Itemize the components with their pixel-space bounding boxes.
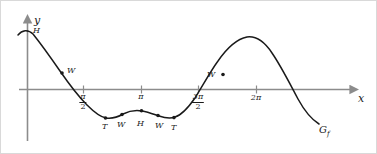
point-label-w-2: W — [117, 121, 125, 129]
point-label-h-2: H — [137, 120, 144, 128]
curve-name-base: G — [319, 124, 327, 135]
fraction-pi-over-2: π 2 — [79, 93, 86, 111]
tick-label-3pi-over-2: 3π 2 — [192, 93, 204, 111]
point-label-t-2: T — [171, 124, 176, 132]
marker-w-3 — [156, 114, 160, 118]
function-curve — [18, 31, 319, 124]
marker-t-2 — [172, 116, 176, 120]
tick-label-pi: π — [138, 93, 143, 101]
tick-label-pi-over-2: π 2 — [79, 93, 86, 111]
marker-t-1 — [104, 116, 108, 120]
point-label-h-1: H — [33, 27, 40, 35]
x-axis-label: x — [358, 93, 364, 104]
marker-w-2 — [120, 113, 124, 117]
point-label-w-1: W — [67, 67, 75, 75]
point-label-w-4: W — [207, 71, 215, 79]
marker-h-2 — [140, 109, 144, 113]
fraction-numerator: π — [79, 93, 86, 101]
y-axis-label: y — [34, 15, 40, 26]
fraction-3pi-over-2: 3π 2 — [192, 93, 204, 111]
curve-name-subscript: f — [327, 130, 330, 138]
point-label-w-3: W — [155, 122, 163, 130]
marker-w-1 — [60, 71, 64, 75]
tick-label-2pi: 2π — [251, 94, 261, 102]
marker-w-4 — [221, 73, 225, 77]
fraction-denominator: 2 — [192, 103, 204, 111]
fraction-denominator: 2 — [79, 103, 86, 111]
point-label-t-1: T — [102, 123, 107, 131]
graph-figure: y x π 2 π 3π 2 2π H W T W H W T W Gf — [0, 0, 377, 154]
curve-name-label: Gf — [319, 125, 330, 138]
fraction-numerator: 3π — [192, 93, 204, 101]
